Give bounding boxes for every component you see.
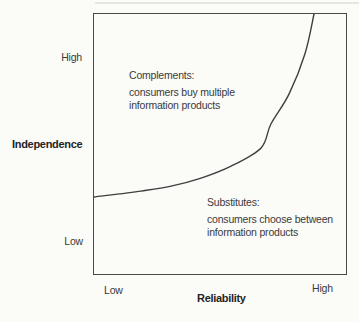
x-tick-high: High (312, 282, 333, 294)
y-axis-title: Independence (12, 138, 82, 151)
y-tick-low: Low (41, 235, 83, 247)
figure-canvas: Complements: consumers buy multiple info… (0, 0, 359, 322)
annotation-complements-line-1: consumers buy multiple (129, 86, 235, 99)
annotation-complements: Complements: consumers buy multiple info… (129, 69, 235, 112)
plot-area: Complements: consumers buy multiple info… (93, 13, 347, 275)
x-tick-low: Low (104, 284, 123, 296)
annotation-complements-line-2: information products (129, 99, 235, 112)
y-tick-high: High (40, 51, 82, 63)
x-axis-title: Reliability (197, 292, 246, 305)
scan-artifact (95, 2, 359, 4)
annotation-substitutes: Substitutes: consumers choose between in… (207, 196, 333, 239)
annotation-substitutes-line-1: consumers choose between (207, 213, 333, 226)
annotation-substitutes-line-2: information products (207, 226, 333, 239)
annotation-substitutes-heading: Substitutes: (207, 196, 333, 209)
annotation-complements-heading: Complements: (129, 69, 235, 82)
